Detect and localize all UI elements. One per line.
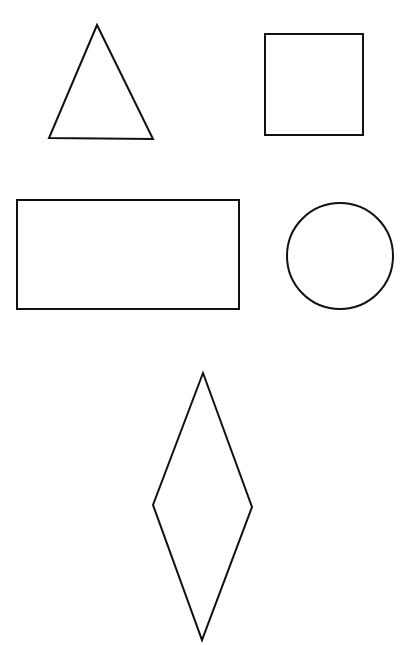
rectangle-shape (17, 200, 239, 309)
square-shape (265, 34, 363, 135)
shapes-canvas (0, 0, 409, 645)
triangle-shape (49, 25, 153, 139)
diamond-shape (153, 373, 252, 640)
circle-shape (287, 203, 393, 309)
